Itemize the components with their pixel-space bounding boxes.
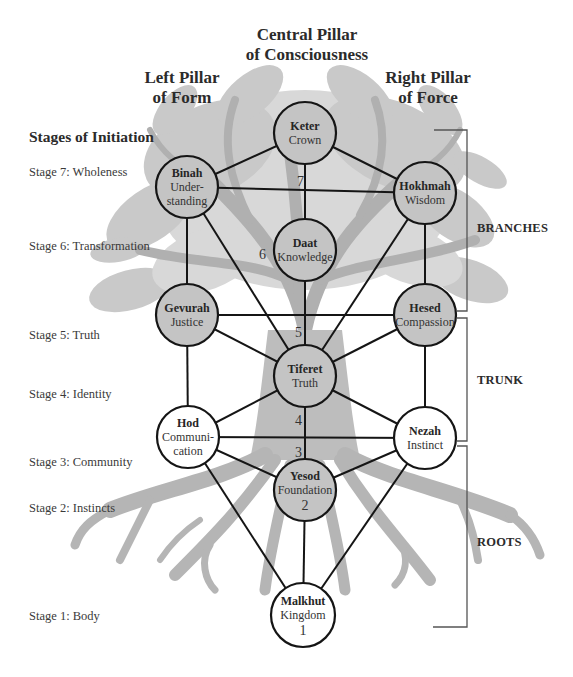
sefirah-hesed: HesedCompassion <box>394 284 456 346</box>
sefirah-name: Yesod <box>290 469 320 483</box>
sefirah-meaning: standing <box>167 194 208 208</box>
sefirah-hod: HodCommuni-cation <box>157 406 219 468</box>
sefirah-nezah: NezahInstinct <box>394 407 456 469</box>
sefirah-binah: BinahUnder-standing <box>156 156 218 218</box>
trunk-bracket <box>457 318 467 441</box>
stage-label: Stage 1: Body <box>29 609 101 623</box>
sefirah-keter: KeterCrown <box>274 102 336 164</box>
sefirah-name: Nezah <box>409 424 441 438</box>
stages-title: Stages of Initiation <box>29 128 154 145</box>
sefirah-yesod: YesodFoundation2 <box>274 459 336 521</box>
tree-of-life-diagram: Central Pillar of Consciousness Left Pil… <box>0 0 573 677</box>
sefirah-name: Binah <box>172 166 203 180</box>
roots-bracket <box>433 446 467 627</box>
right-pillar-title-line2: of Force <box>398 88 458 107</box>
section-label-branches: BRANCHES <box>477 221 548 235</box>
sefirah-meaning: Justice <box>171 315 204 329</box>
sefirah-meaning: Crown <box>289 133 322 147</box>
sefirah-name: Hesed <box>409 301 441 315</box>
stage-label: Stage 6: Transformation <box>29 239 151 253</box>
section-label-trunk: TRUNK <box>477 373 523 387</box>
path-number: 3 <box>295 445 302 460</box>
sefirah-meaning: Wisdom <box>405 193 446 207</box>
sefirah-meaning: Communi- <box>162 430 214 444</box>
path-line-hod-nezah <box>188 437 425 438</box>
section-label-roots: ROOTS <box>477 535 522 549</box>
sefirah-name: Hod <box>177 416 199 430</box>
sefirah-meaning: cation <box>173 444 202 458</box>
stage-label: Stage 5: Truth <box>29 328 101 342</box>
path-number: 7 <box>297 174 304 189</box>
stage-label: Stage 4: Identity <box>29 387 112 401</box>
path-number: 5 <box>295 325 302 340</box>
sefirah-name: Daat <box>293 236 318 250</box>
sefirah-meaning: Foundation <box>278 483 333 497</box>
sefirah-meaning: Under- <box>170 180 204 194</box>
central-pillar-title-line1: Central Pillar <box>257 25 358 44</box>
left-pillar-title-line1: Left Pillar <box>144 68 220 87</box>
sefirah-meaning: Kingdom <box>280 608 326 622</box>
stage-number: 2 <box>302 498 309 513</box>
sefirah-name: Tiferet <box>288 362 323 376</box>
path-number: 4 <box>295 413 302 428</box>
stage-label: Stage 3: Community <box>29 455 133 469</box>
sefirah-name: Gevurah <box>164 301 210 315</box>
path-number: 6 <box>259 247 266 262</box>
sefirah-hokhmah: HokhmahWisdom <box>394 162 456 224</box>
left-pillar-title-line2: of Form <box>152 88 211 107</box>
sefirah-meaning: Knowledge <box>277 250 332 264</box>
sefirah-meaning: Instinct <box>407 438 444 452</box>
sefirah-daat: DaatKnowledge <box>274 219 336 281</box>
central-pillar-title-line2: of Consciousness <box>246 45 369 64</box>
sefirah-name: Hokhmah <box>399 179 451 193</box>
right-pillar-title-line1: Right Pillar <box>385 68 471 87</box>
sefirah-meaning: Truth <box>292 376 318 390</box>
sefirah-gevurah: GevurahJustice <box>156 284 218 346</box>
diagram-canvas: Central Pillar of Consciousness Left Pil… <box>0 0 573 677</box>
sefirah-name: Keter <box>290 119 320 133</box>
sefirah-meaning: Compassion <box>395 315 454 329</box>
stage-number: 1 <box>300 623 307 638</box>
sefirah-name: Malkhut <box>281 594 326 608</box>
stage-label: Stage 2: Instincts <box>29 501 115 515</box>
stage-label: Stage 7: Wholeness <box>29 165 127 179</box>
sefirah-tiferet: TiferetTruth <box>274 345 336 407</box>
sefirah-malkhut: MalkhutKingdom1 <box>271 583 335 647</box>
